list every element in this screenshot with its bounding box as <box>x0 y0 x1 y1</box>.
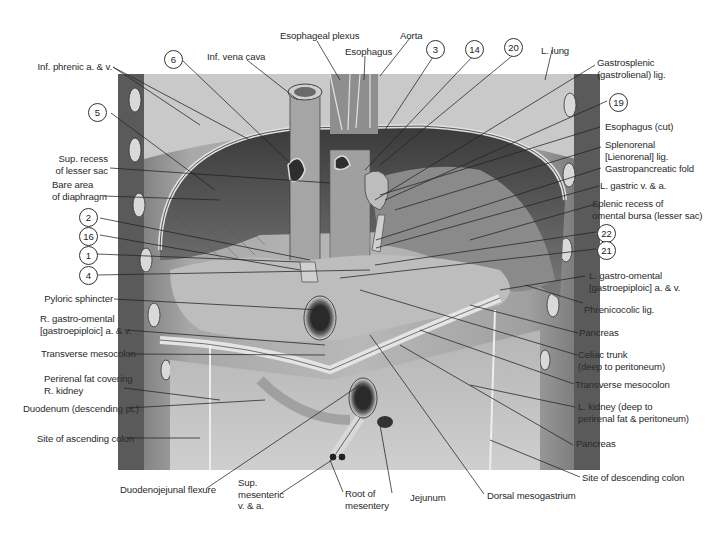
label-bare-area-line2: of diaphragm <box>52 191 107 203</box>
label-pancreas-lower: Pancreas <box>576 438 616 450</box>
label-l-gastro-omental: L. gastro-omental [gastroepiploic] a. & … <box>589 270 680 293</box>
label-root-line1: Root of <box>345 488 389 500</box>
label-r-gastro-line1: R. gastro-omental <box>40 313 131 325</box>
label-celiac-line1: Celiac trunk <box>578 349 665 361</box>
label-transverse-mesocolon-right: Transverse mesocolon <box>575 379 670 391</box>
label-l-lung: L. lung <box>541 45 569 57</box>
label-ascending-colon: Site of ascending colon <box>37 433 134 445</box>
label-sup-mesenteric-line3: v. & a. <box>238 500 284 512</box>
label-pancreas-upper: Pancreas <box>579 327 619 339</box>
label-esophagus: Esophagus <box>345 46 392 58</box>
label-transverse-mesocolon-left: Transverse mesocolon <box>41 348 136 360</box>
label-gastrosplenic-line2: (gastrolienal) lig. <box>597 69 665 81</box>
label-esophagus-cut: Esophagus (cut) <box>605 121 673 133</box>
label-descending-colon: Site of descending colon <box>582 472 684 484</box>
label-l-gastric: L. gastric v. & a. <box>600 180 666 192</box>
label-inf-phrenic: Inf. phrenic a. & v. <box>0 61 112 73</box>
label-l-gastro-line1: L. gastro-omental <box>589 270 680 282</box>
label-celiac-trunk: Celiac trunk (deep to peritoneum) <box>578 349 665 372</box>
callout-14: 14 <box>465 40 484 59</box>
callout-16: 16 <box>79 227 98 246</box>
label-sup-mesenteric-line2: mesenteric <box>238 489 284 501</box>
label-splenorenal-lig: Splenorenal [Lienorenal] lig. <box>605 139 668 162</box>
label-gastrosplenic-lig: Gastrosplenic (gastrolienal) lig. <box>597 57 665 80</box>
label-bare-area: Bare area of diaphragm <box>52 179 107 202</box>
callout-6: 6 <box>164 50 183 69</box>
label-splenic-recess-line1: Splenic recess of <box>592 198 702 210</box>
label-sup-recess-line1: Sup. recess <box>0 153 108 165</box>
label-r-gastro-omental: R. gastro-omental [gastroepiploic] a. & … <box>40 313 131 336</box>
label-jejunum: Jejunum <box>410 492 446 504</box>
label-splenic-recess: Splenic recess of omental bursa (lesser … <box>592 198 702 221</box>
label-l-kidney-line2: perirenal fat & peritoneum) <box>578 413 689 425</box>
callout-1: 1 <box>79 246 98 265</box>
label-inf-vena-cava: Inf. vena cava <box>207 51 265 63</box>
label-l-kidney: L. kidney (deep to perirenal fat & perit… <box>578 401 689 424</box>
callout-4: 4 <box>79 266 98 285</box>
label-sup-recess: Sup. recess of lesser sac <box>0 153 108 176</box>
label-sup-mesenteric: Sup. mesenteric v. & a. <box>238 477 284 512</box>
label-splenic-recess-line2: omental bursa (lesser sac) <box>592 210 702 222</box>
label-dorsal-mesogastrium: Dorsal mesogastrium <box>487 490 576 502</box>
label-l-gastro-line2: [gastroepiploic] a. & v. <box>589 282 680 294</box>
label-duodenojejunal-flexure: Duodenojejunal flexure <box>120 484 216 496</box>
label-sup-recess-line2: of lesser sac <box>0 165 108 177</box>
label-l-kidney-line1: L. kidney (deep to <box>578 401 689 413</box>
label-perirenal-fat: Perirenal fat covering R. kidney <box>44 373 132 396</box>
label-sup-mesenteric-line1: Sup. <box>238 477 284 489</box>
label-splenorenal-line1: Splenorenal <box>605 139 668 151</box>
label-perirenal-line2: R. kidney <box>44 385 132 397</box>
callout-21: 21 <box>597 241 616 260</box>
label-bare-area-line1: Bare area <box>52 179 107 191</box>
label-gastrosplenic-line1: Gastrosplenic <box>597 57 665 69</box>
callout-5: 5 <box>88 103 107 122</box>
label-root-of-mesentery: Root of mesentery <box>345 488 389 511</box>
callout-2: 2 <box>79 208 98 227</box>
label-r-gastro-line2: [gastroepiploic] a. & v. <box>40 325 131 337</box>
label-esophageal-plexus: Esophageal plexus <box>280 30 359 42</box>
label-pyloric-sphincter: Pyloric sphincter <box>0 293 113 305</box>
label-perirenal-line1: Perirenal fat covering <box>44 373 132 385</box>
label-splenorenal-line2: [Lienorenal] lig. <box>605 151 668 163</box>
label-duodenum: Duodenum (descending pt.) <box>23 403 139 415</box>
label-root-line2: mesentery <box>345 500 389 512</box>
callout-19: 19 <box>609 93 628 112</box>
label-gastropancreatic-fold: Gastropancreatic fold <box>605 163 694 175</box>
leader-lines <box>0 0 722 538</box>
callout-3: 3 <box>426 40 445 59</box>
label-celiac-line2: (deep to peritoneum) <box>578 361 665 373</box>
anatomy-figure: Inf. phrenic a. & v. 5 Sup. recess of le… <box>0 0 722 538</box>
label-aorta: Aorta <box>400 30 422 42</box>
callout-20: 20 <box>504 38 523 57</box>
label-phrenicocolic-lig: Phrenicocolic lig. <box>584 304 654 316</box>
